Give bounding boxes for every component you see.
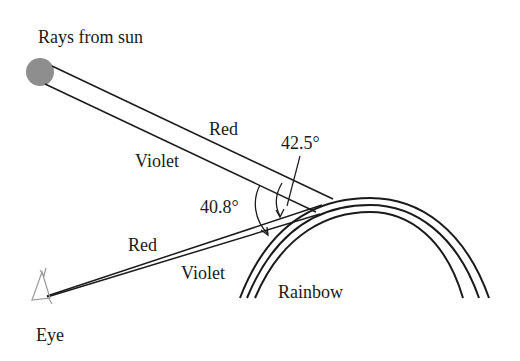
incoming-violet-ray — [45, 84, 316, 212]
violet-angle-label: 40.8° — [200, 198, 239, 216]
eye-icon — [32, 268, 52, 304]
outgoing-red-label: Red — [128, 236, 157, 254]
diagram-graphics — [0, 0, 520, 361]
rainbow-label: Rainbow — [278, 283, 343, 301]
incoming-violet-label: Violet — [135, 152, 179, 170]
rays-from-sun-label: Rays from sun — [38, 28, 143, 46]
sun-icon — [26, 58, 54, 86]
incoming-red-label: Red — [209, 120, 238, 138]
eye-label: Eye — [36, 326, 64, 344]
rainbow-diagram: Rays from sun Red Violet 42.5° 40.8° Red… — [0, 0, 520, 361]
red-angle-label: 42.5° — [281, 134, 320, 152]
pointer-42 — [287, 156, 300, 206]
outgoing-violet-label: Violet — [181, 264, 225, 282]
